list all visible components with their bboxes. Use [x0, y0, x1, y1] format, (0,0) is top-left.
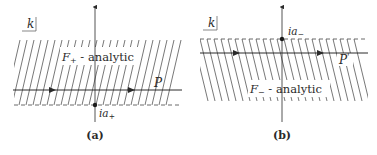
plane-label-a: k [22, 17, 36, 31]
plane-label-b: k [203, 16, 217, 30]
contour-label-a: P [153, 76, 163, 90]
contour-diagram: k F+ - analytic P ia+ (a) [0, 0, 377, 155]
svg-text:k: k [27, 17, 34, 31]
caption-b: (b) [273, 129, 291, 142]
pole-label-a: ia+ [99, 107, 115, 121]
pole-point-b [280, 37, 284, 41]
pole-point-a [93, 103, 97, 107]
panel-b: k F− - analytic P' ia− (b) [193, 7, 369, 142]
pole-label-b: ia− [288, 25, 304, 39]
panel-a: k F+ - analytic P ia+ (a) [5, 7, 182, 142]
svg-text:k: k [208, 16, 215, 30]
caption-a: (a) [86, 129, 104, 142]
arrow-icon [49, 87, 56, 93]
